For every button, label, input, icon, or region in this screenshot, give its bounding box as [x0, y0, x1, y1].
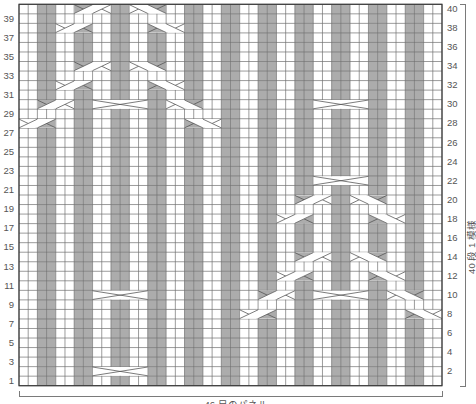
chart-cell: [240, 281, 249, 291]
chart-cell: [175, 309, 184, 319]
chart-cell: [47, 157, 56, 167]
chart-cell: [267, 14, 276, 24]
chart-cell: [267, 243, 276, 253]
chart-cell: [129, 128, 138, 138]
chart-cell: [304, 290, 313, 300]
chart-cell: [350, 328, 359, 338]
chart-cell: [332, 309, 341, 319]
chart-cell: [249, 233, 258, 243]
chart-cell: [350, 348, 359, 358]
chart-cell: [203, 328, 212, 338]
chart-cell: [102, 328, 111, 338]
chart-cell: [249, 290, 258, 300]
chart-cell: [47, 214, 56, 224]
chart-cell: [332, 252, 341, 262]
chart-cell: [304, 100, 313, 110]
chart-cell: [258, 33, 267, 43]
chart-cell: [157, 100, 166, 110]
cable-cross-symbol: [405, 310, 442, 319]
chart-cell: [405, 348, 414, 358]
chart-cell: [433, 138, 442, 148]
chart-cell: [120, 62, 129, 72]
chart-cell: [28, 14, 37, 24]
chart-cell: [341, 243, 350, 253]
chart-cell: [166, 252, 175, 262]
chart-cell: [28, 4, 37, 14]
chart-cell: [166, 138, 175, 148]
chart-cell: [221, 243, 230, 253]
chart-cell: [157, 157, 166, 167]
chart-cell: [414, 224, 423, 234]
chart-cell: [240, 147, 249, 157]
chart-cell: [304, 147, 313, 157]
chart-cell: [424, 14, 433, 24]
chart-cell: [19, 338, 28, 348]
chart-cell: [350, 109, 359, 119]
chart-cell: [414, 100, 423, 110]
chart-cell: [74, 233, 83, 243]
chart-cell: [111, 4, 120, 14]
chart-cell: [56, 14, 65, 24]
chart-cell: [65, 328, 74, 338]
row-number-label: 35: [0, 52, 14, 62]
chart-cell: [433, 100, 442, 110]
chart-cell: [203, 224, 212, 234]
chart-cell: [102, 376, 111, 386]
chart-cell: [414, 90, 423, 100]
chart-cell: [341, 23, 350, 33]
chart-cell: [387, 23, 396, 33]
cable-cross-symbol: [93, 367, 148, 376]
chart-cell: [185, 328, 194, 338]
chart-cell: [47, 338, 56, 348]
chart-cell: [359, 71, 368, 81]
chart-cell: [139, 166, 148, 176]
chart-cell: [424, 214, 433, 224]
chart-cell: [37, 90, 46, 100]
chart-cell: [221, 109, 230, 119]
chart-cell: [185, 348, 194, 358]
chart-cell: [378, 62, 387, 72]
chart-cell: [258, 71, 267, 81]
chart-cell: [240, 243, 249, 253]
chart-cell: [56, 271, 65, 281]
chart-cell: [313, 319, 322, 329]
chart-cell: [276, 138, 285, 148]
chart-cell: [120, 90, 129, 100]
chart-cell: [286, 138, 295, 148]
chart-cell: [359, 23, 368, 33]
chart-cell: [175, 205, 184, 215]
chart-cell: [175, 138, 184, 148]
chart-cell: [396, 185, 405, 195]
chart-cell: [148, 367, 157, 377]
chart-cell: [166, 176, 175, 186]
chart-cell: [405, 176, 414, 186]
chart-cell: [203, 376, 212, 386]
chart-cell: [221, 138, 230, 148]
chart-cell: [424, 262, 433, 272]
chart-cell: [37, 195, 46, 205]
chart-cell: [28, 147, 37, 157]
chart-cell: [166, 147, 175, 157]
chart-cell: [322, 71, 331, 81]
chart-cell: [93, 71, 102, 81]
chart-cell: [405, 71, 414, 81]
chart-cell: [185, 90, 194, 100]
chart-cell: [414, 262, 423, 272]
chart-cell: [414, 52, 423, 62]
chart-cell: [322, 262, 331, 272]
chart-cell: [378, 309, 387, 319]
chart-cell: [240, 119, 249, 129]
chart-cell: [231, 100, 240, 110]
chart-cell: [102, 52, 111, 62]
chart-cell: [276, 119, 285, 129]
chart-cell: [28, 23, 37, 33]
chart-cell: [359, 185, 368, 195]
chart-cell: [240, 157, 249, 167]
chart-cell: [212, 195, 221, 205]
cable-cross-symbol: [313, 291, 368, 300]
cable-cross-symbol: [313, 100, 368, 109]
chart-cell: [175, 157, 184, 167]
chart-cell: [378, 138, 387, 148]
chart-cell: [56, 262, 65, 272]
chart-cell: [221, 62, 230, 72]
